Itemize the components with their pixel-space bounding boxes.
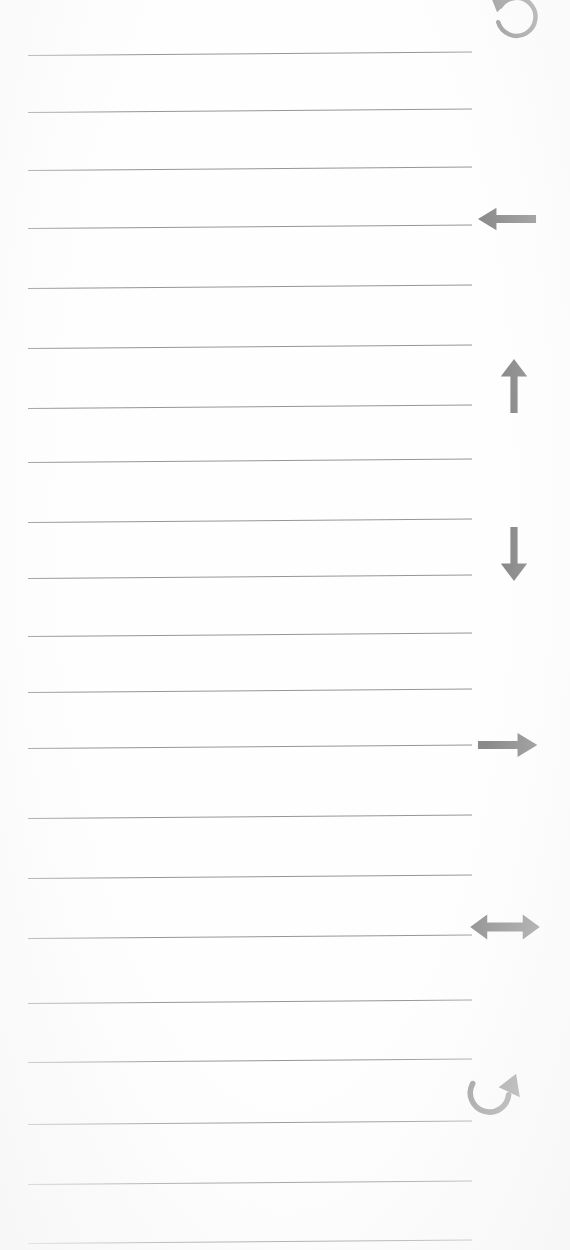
rule-line — [28, 519, 472, 523]
rule-line — [28, 459, 472, 463]
rule-line — [28, 1181, 472, 1185]
rule-line — [28, 52, 472, 56]
arrow-left-right-icon — [468, 890, 542, 964]
rule-line — [28, 575, 472, 579]
rule-line — [28, 1240, 472, 1244]
rule-line — [28, 405, 472, 409]
rule-line — [28, 225, 472, 229]
arrow-down-icon — [484, 524, 544, 584]
rule-line — [28, 633, 472, 637]
arrow-left-icon — [474, 186, 540, 252]
rule-line — [28, 875, 472, 879]
rule-line — [28, 1000, 472, 1004]
rule-line — [28, 109, 472, 113]
undo-circular-arrow-icon — [487, 0, 543, 48]
rule-line — [28, 745, 472, 749]
rule-line — [28, 689, 472, 693]
rule-line — [28, 1059, 472, 1063]
rule-line — [28, 345, 472, 349]
rule-line — [28, 285, 472, 289]
rule-line — [28, 935, 472, 939]
rule-line — [28, 1121, 472, 1125]
arrow-up-icon — [484, 356, 544, 416]
redo-curved-arrow-icon — [464, 1060, 526, 1122]
rule-line — [28, 167, 472, 171]
notepad-page — [0, 0, 570, 1250]
rule-line — [28, 815, 472, 819]
arrow-right-icon — [474, 712, 540, 778]
